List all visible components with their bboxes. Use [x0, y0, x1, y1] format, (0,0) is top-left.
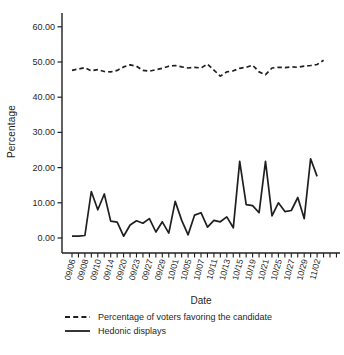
y-tick-label: 60.00	[32, 22, 55, 32]
series-line-dashed	[72, 60, 324, 76]
legend-label-hedonic: Hedonic displays	[98, 326, 166, 336]
y-tick-label: 0.00	[37, 233, 55, 243]
y-axis-title: Percentage	[6, 97, 17, 167]
y-tick-label: 50.00	[32, 57, 55, 67]
legend-item-hedonic: Hedonic displays	[64, 326, 272, 336]
dashed-line-sample-icon	[64, 313, 91, 321]
y-tick-label: 10.00	[32, 198, 55, 208]
legend-label-voters: Percentage of voters favoring the candid…	[98, 312, 272, 322]
x-tick-label: 11/02	[307, 258, 322, 281]
series-line-solid	[72, 159, 317, 236]
x-axis-title: Date	[62, 295, 340, 306]
legend-item-voters: Percentage of voters favoring the candid…	[64, 312, 272, 322]
solid-line-sample-icon	[64, 327, 91, 335]
y-tick-label: 20.00	[32, 163, 55, 173]
y-tick-label: 30.00	[32, 127, 55, 137]
chart-legend: Percentage of voters favoring the candid…	[64, 312, 272, 336]
y-tick-label: 40.00	[32, 92, 55, 102]
chart-plot-area: 60.0050.0040.0030.0020.0010.000.0009/060…	[0, 0, 344, 310]
line-chart-figure: 60.0050.0040.0030.0020.0010.000.0009/060…	[0, 0, 344, 355]
